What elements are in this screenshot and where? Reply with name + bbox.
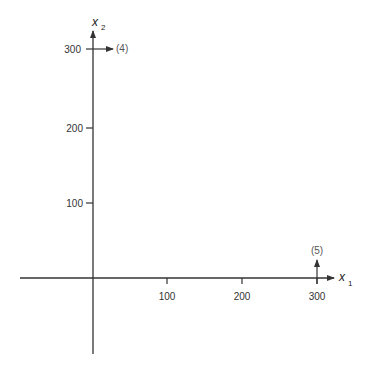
x-axis-label: x (338, 270, 346, 284)
y-tick-label-100: 100 (66, 198, 83, 209)
coordinate-diagram: 100 200 300 100 200 300 x 2 x 1 (4) (5) (0, 0, 371, 370)
constraint-5-label: (5) (311, 245, 323, 256)
x-tick-label-300: 300 (309, 291, 326, 302)
y-axis-label: x (91, 15, 99, 29)
x-axis-subscript: 1 (348, 279, 353, 288)
y-tick-label-200: 200 (66, 123, 83, 134)
x-tick-label-100: 100 (159, 291, 176, 302)
constraint-4-label: (4) (116, 43, 128, 54)
y-tick-label-300: 300 (64, 44, 81, 55)
y-axis-subscript: 2 (101, 23, 106, 32)
x-tick-label-200: 200 (234, 291, 251, 302)
